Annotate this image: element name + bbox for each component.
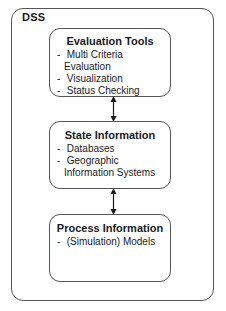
list-item: - Multi Criteria Evaluation: [57, 49, 170, 73]
state-information-box: State Information - Databases - Geograph…: [49, 121, 171, 189]
state-information-list: - Databases - Geographic Information Sys…: [50, 143, 170, 179]
list-item: - Geographic Information Systems: [57, 155, 170, 179]
bidirectional-arrow-icon: [109, 188, 118, 215]
process-information-box: Process Information - (Simulation) Model…: [49, 214, 171, 282]
dss-label: DSS: [22, 11, 45, 23]
bidirectional-arrow-icon: [109, 96, 118, 122]
evaluation-tools-box: Evaluation Tools - Multi Criteria Evalua…: [49, 28, 171, 97]
evaluation-tools-title: Evaluation Tools: [50, 35, 170, 47]
state-information-title: State Information: [50, 129, 170, 141]
list-item: - Databases: [57, 143, 170, 155]
process-information-list: - (Simulation) Models: [50, 236, 170, 248]
list-item: - Visualization: [57, 73, 170, 85]
list-item: - (Simulation) Models: [57, 236, 170, 248]
evaluation-tools-list: - Multi Criteria Evaluation - Visualizat…: [50, 49, 170, 97]
process-information-title: Process Information: [50, 222, 170, 234]
